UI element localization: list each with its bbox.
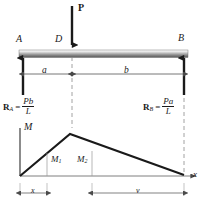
reaction-left-fraction: PbL [22, 97, 34, 116]
reaction-right-equals: = [155, 102, 160, 112]
moment-axis-label-x: x [193, 170, 197, 179]
reaction-right-fraction: PaL [162, 97, 174, 116]
label-point-a: A [16, 34, 22, 44]
label-point-b: B [178, 33, 184, 43]
label-point-d: D [55, 34, 62, 44]
label-m2: M2 [77, 155, 87, 165]
reaction-right-denominator: L [162, 107, 174, 116]
label-m1: M1 [51, 155, 61, 165]
reaction-left-equals: = [15, 102, 20, 112]
beam-moment-figure: A D B P a b RA=PbL RB=PaL M x M1 M2 x v [0, 0, 203, 203]
reaction-left-subscript: A [10, 106, 14, 112]
label-m2-sub: 2 [85, 158, 88, 164]
label-dimension-a: a [42, 66, 47, 76]
label-m1-base: M [51, 154, 59, 164]
label-lower-dimension-x: x [31, 187, 35, 195]
beam-member [19, 50, 188, 58]
label-load-p: P [78, 3, 84, 13]
label-lower-dimension-v: v [136, 187, 140, 195]
reaction-left-label: RA=PbL [3, 97, 34, 116]
moment-curve [20, 134, 184, 176]
reaction-right-label: RB=PaL [143, 97, 174, 116]
label-dimension-b: b [124, 66, 129, 76]
reaction-right-subscript: B [150, 106, 154, 112]
label-m2-base: M [77, 154, 85, 164]
reaction-left-denominator: L [22, 107, 34, 116]
label-m1-sub: 1 [59, 158, 62, 164]
moment-axis-label-m: M [24, 122, 32, 132]
